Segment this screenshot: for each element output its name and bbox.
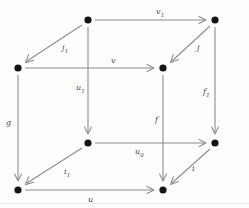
cube-graphics	[0, 0, 249, 208]
vertex-back-bottom-left	[84, 139, 91, 146]
vertex-front-bottom-left	[14, 186, 21, 193]
edge-label-g: g	[6, 119, 11, 127]
bottom-divider	[0, 203, 249, 204]
edge-g	[15, 75, 22, 181]
edge-label-j: j	[197, 44, 200, 52]
edge-j	[171, 26, 211, 63]
vertex-front-top-left	[14, 64, 21, 71]
edge-label-f1: f1	[203, 88, 210, 96]
edge-label-v: v	[111, 57, 116, 65]
edge-label-u1: u1	[76, 84, 85, 92]
edge-label-u0: u0	[135, 148, 144, 156]
commutative-cube-diagram: v1 j j1 v u1 g f1 f u0 i1 i u	[0, 0, 249, 208]
edge-u	[25, 187, 154, 194]
vertex-front-bottom-right	[159, 186, 166, 193]
edge-i1	[25, 148, 82, 185]
edge-label-j1: j1	[62, 44, 68, 52]
vertex-back-top-right	[211, 16, 218, 23]
edge-label-i: i	[192, 165, 195, 173]
edge-label-v1: v1	[156, 8, 164, 16]
edge-f	[160, 75, 167, 181]
vertex-back-bottom-right	[211, 139, 218, 146]
edge-j1	[25, 25, 82, 63]
edge-v	[25, 65, 154, 72]
vertex-front-top-right	[159, 64, 166, 71]
edge-label-i1: i1	[64, 168, 70, 176]
edge-v1	[95, 17, 206, 24]
vertex-back-top-left	[84, 16, 91, 23]
edge-u1	[85, 27, 92, 134]
edge-label-f: f	[155, 116, 158, 124]
edge-u0	[95, 140, 206, 147]
edge-i	[171, 149, 211, 185]
edge-f1	[212, 27, 219, 134]
